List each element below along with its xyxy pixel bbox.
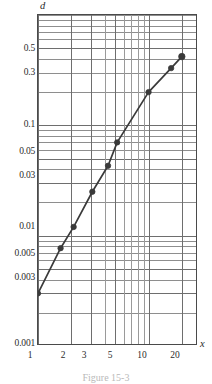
- figure-root: d 0.50.30.10.050.030.010.0050.0030.001 1…: [0, 0, 212, 384]
- x-tick-label: 10: [134, 350, 150, 360]
- y-tick-label: 0.5: [24, 44, 35, 54]
- data-point-marker: [146, 89, 151, 94]
- data-point-marker: [38, 291, 41, 296]
- y-tick-label: 0.05: [19, 147, 35, 157]
- y-tick-label: 0.01: [19, 222, 35, 232]
- data-point-marker: [71, 224, 76, 229]
- data-point-marker: [58, 245, 63, 250]
- series-line: [38, 57, 182, 294]
- data-point-marker: [90, 189, 95, 194]
- figure-caption: Figure 15-3: [0, 372, 212, 383]
- x-tick-label: 20: [167, 350, 183, 360]
- y-tick-label: 0.005: [15, 249, 35, 259]
- x-tick-label: 5: [102, 350, 118, 360]
- y-tick-label: 0.1: [24, 120, 35, 130]
- y-tick-label: 0.03: [19, 171, 35, 181]
- x-axis-name-label: x: [200, 338, 205, 349]
- x-tick-label: 3: [76, 350, 92, 360]
- x-tick-label: 1: [22, 350, 38, 360]
- data-point-marker: [179, 53, 185, 59]
- data-point-marker: [105, 163, 110, 168]
- y-axis-tick-labels: 0.50.30.10.050.030.010.0050.0030.001: [0, 0, 35, 384]
- y-tick-label: 0.003: [15, 273, 35, 283]
- data-point-marker: [114, 140, 119, 145]
- y-axis-name-label: d: [40, 0, 45, 11]
- y-tick-label: 0.001: [15, 339, 35, 349]
- plot-area: [37, 14, 197, 345]
- data-point-marker: [168, 65, 173, 70]
- x-axis-tick-labels: 12351020: [0, 350, 212, 366]
- data-series-curve: [38, 15, 197, 345]
- y-tick-label: 0.3: [24, 68, 35, 78]
- x-tick-label: 2: [55, 350, 71, 360]
